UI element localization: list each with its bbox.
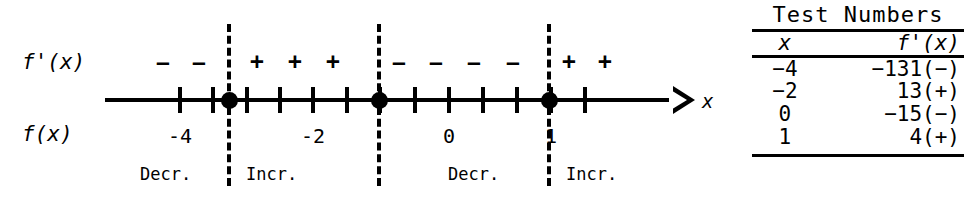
cell-x: −2 [752, 80, 818, 103]
sign-mark: + [250, 50, 264, 73]
axis-tick [245, 87, 249, 113]
rule-cell [752, 148, 818, 156]
derivative-row-label: f'(x) [22, 50, 85, 74]
axis-value-label: 0 [425, 124, 473, 148]
test-numbers-table: Test Numbers x f'(x) −4 −131(−) −2 13(+)… [742, 2, 974, 157]
behavior-label: Incr. [566, 164, 617, 184]
number-line-axis [105, 98, 677, 102]
axis-tick [278, 87, 282, 113]
critical-point-dot [371, 92, 388, 109]
test-numbers-title: Test Numbers [742, 2, 974, 29]
column-header-fprime: f'(x) [818, 31, 964, 57]
axis-value-label: 1 [527, 124, 575, 148]
table-row: −2 13(+) [752, 80, 964, 103]
sign-mark: + [562, 50, 576, 73]
axis-tick [311, 87, 315, 113]
cell-fprime: −15(−) [818, 103, 964, 126]
sign-mark: − [156, 52, 170, 75]
axis-tick [447, 87, 451, 113]
sign-mark: − [429, 52, 443, 75]
axis-tick [515, 87, 519, 113]
table-row: −4 −131(−) [752, 56, 964, 80]
axis-tick [413, 87, 417, 113]
axis-value-label: -4 [156, 124, 204, 148]
cell-fprime: −131(−) [818, 56, 964, 80]
axis-tick [178, 87, 182, 113]
cell-x: 0 [752, 103, 818, 126]
table-row: 1 4(+) [752, 126, 964, 149]
axis-value-label: -2 [289, 124, 337, 148]
axis-arrowhead-icon [673, 86, 695, 114]
table-bottom-rule [752, 148, 964, 156]
behavior-label: Incr. [246, 164, 297, 184]
cell-x: 1 [752, 126, 818, 149]
sign-mark: + [326, 50, 340, 73]
sign-mark: + [598, 50, 612, 73]
table-header-row: x f'(x) [752, 31, 964, 57]
axis-tick [211, 87, 215, 113]
axis-tick [583, 87, 587, 113]
behavior-label: Decr. [448, 164, 499, 184]
axis-tick [481, 87, 485, 113]
sign-chart-figure: f'(x) f(x) x − − + + + − − − − + + -4 -2… [0, 0, 730, 218]
cell-fprime: 4(+) [818, 126, 964, 149]
axis-variable-label: x [702, 90, 713, 112]
cell-fprime: 13(+) [818, 80, 964, 103]
sign-mark: − [467, 52, 481, 75]
critical-point-dot [541, 92, 558, 109]
sign-mark: − [392, 52, 406, 75]
table-row: 0 −15(−) [752, 103, 964, 126]
column-header-x: x [752, 31, 818, 57]
critical-point-dot [221, 92, 238, 109]
axis-tick [345, 87, 349, 113]
cell-x: −4 [752, 56, 818, 80]
sign-mark: − [506, 52, 520, 75]
sign-mark: − [192, 52, 206, 75]
function-row-label: f(x) [22, 122, 73, 146]
rule-cell [818, 148, 964, 156]
behavior-label: Decr. [140, 164, 191, 184]
sign-mark: + [288, 50, 302, 73]
